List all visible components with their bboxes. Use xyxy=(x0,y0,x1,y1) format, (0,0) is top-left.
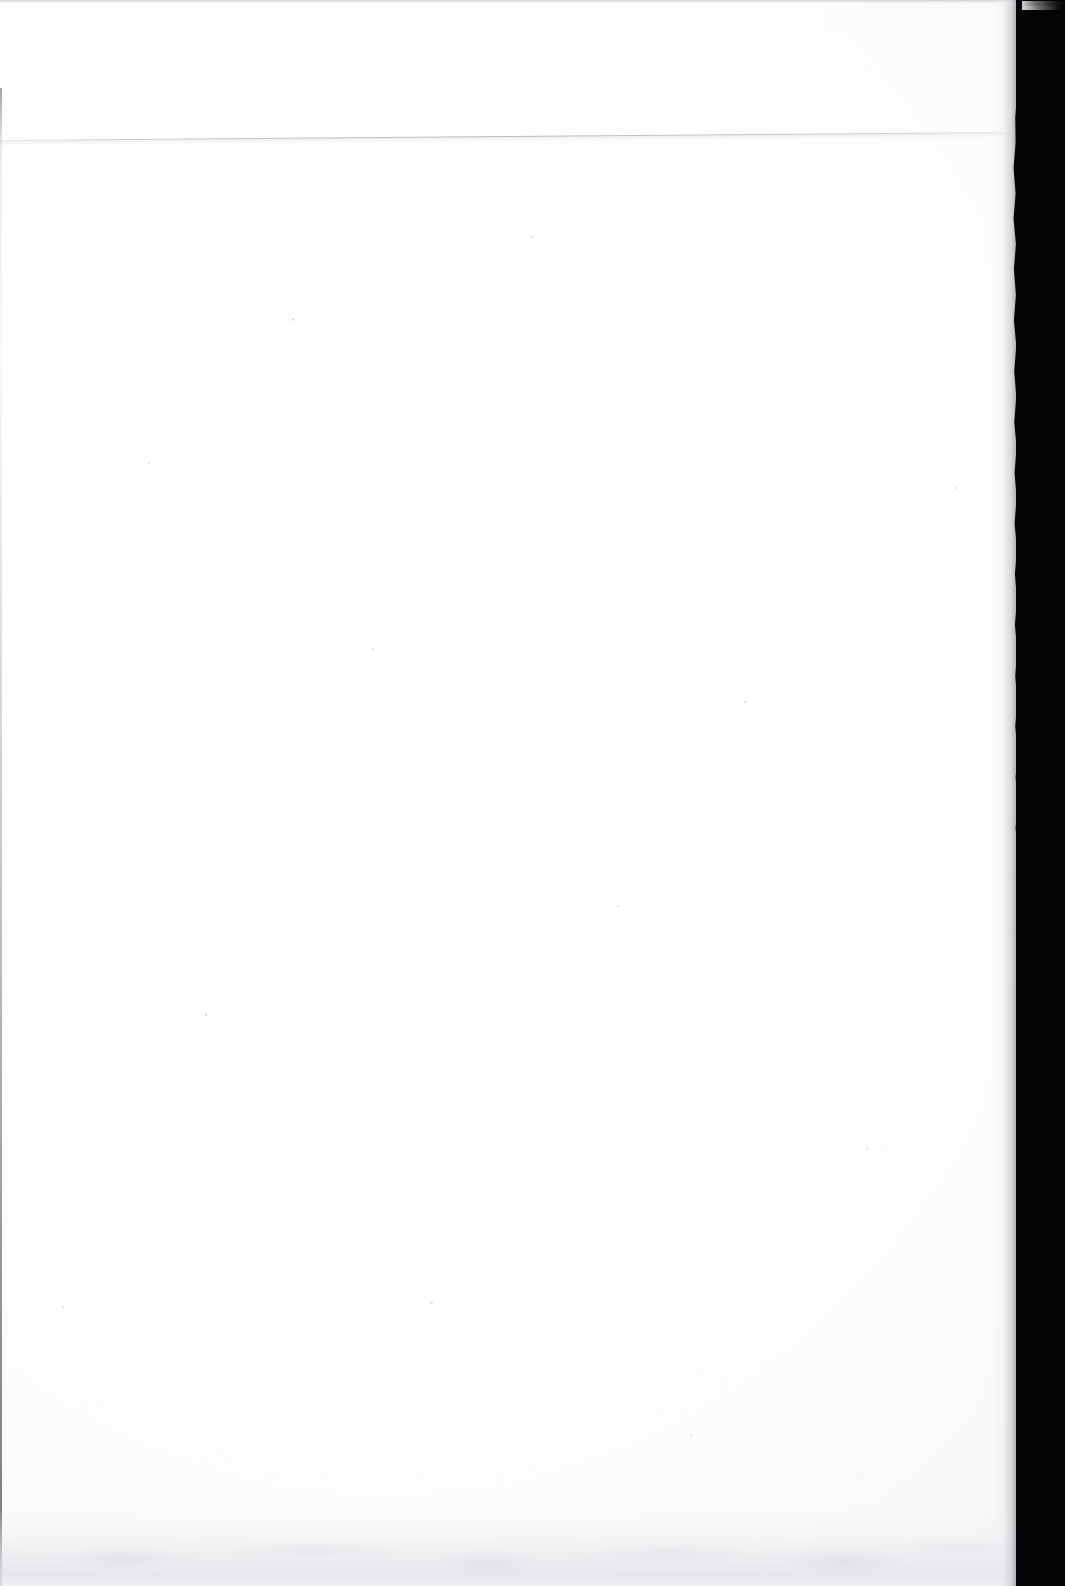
paper-fleck xyxy=(430,1302,433,1304)
paper-fleck xyxy=(866,1148,868,1150)
paper-fleck xyxy=(372,648,374,650)
top-edge-band xyxy=(0,0,1016,4)
left-margin-line xyxy=(0,88,2,1586)
underlying-sheet-edge-shadow xyxy=(0,133,1025,148)
paper-fleck xyxy=(205,1013,207,1016)
scanned-page-canvas xyxy=(0,0,1065,1586)
right-edge-falloff xyxy=(990,0,1016,1586)
paper-sheet xyxy=(0,0,1016,1586)
paper-fleck xyxy=(744,701,747,703)
paper-fleck xyxy=(955,487,957,489)
paper-grain-texture xyxy=(0,0,1016,1586)
paper-fleck xyxy=(292,318,294,321)
paper-fleck xyxy=(617,905,619,907)
paper-fleck xyxy=(62,1306,64,1308)
bottom-smudge-mottle xyxy=(0,1520,1016,1582)
bottom-smudge-shadow xyxy=(0,1508,1016,1586)
underlying-sheet-edge xyxy=(0,132,1025,141)
paper-fleck xyxy=(531,236,533,238)
paper-tone-gradient xyxy=(0,0,1016,1586)
paper-fleck xyxy=(690,1434,692,1436)
paper-fleck xyxy=(148,462,150,464)
